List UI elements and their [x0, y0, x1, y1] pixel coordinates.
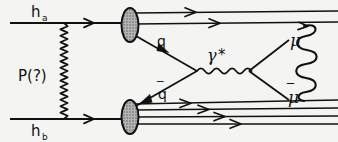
label-photon: γ [207, 46, 217, 65]
feynman-diagram-figure: h a P(?) h b q q ‾ γ * μ μ ‾ [0, 0, 338, 142]
label-hadron-b-subscript: b [42, 132, 48, 142]
diagram-canvas: h a P(?) h b q q ‾ γ * μ μ ‾ [0, 0, 338, 142]
label-antimuon-overbar: ‾ [286, 81, 295, 97]
label-hadron-b: h [31, 122, 41, 140]
label-photon-star: * [218, 46, 226, 64]
label-antiquark-overbar: ‾ [156, 79, 164, 94]
label-muon: μ [290, 30, 301, 50]
figure-background [0, 0, 338, 142]
label-quark: q [157, 33, 166, 49]
lower-jet-line-3 [134, 116, 338, 117]
label-pomeron: P(?) [18, 67, 47, 85]
label-hadron-a-subscript: a [42, 13, 48, 23]
lower-hadron-blob [122, 100, 139, 134]
label-hadron-a: h [31, 3, 41, 21]
upper-hadron-blob [122, 8, 139, 42]
